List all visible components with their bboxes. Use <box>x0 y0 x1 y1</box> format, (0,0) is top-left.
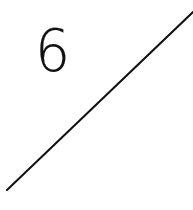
diagonal-line <box>0 0 193 210</box>
